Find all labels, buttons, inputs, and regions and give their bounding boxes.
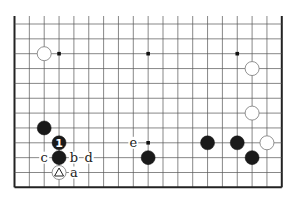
- black-stone-icon: [245, 151, 259, 165]
- black-stone-icon: [52, 151, 66, 165]
- white-stone-icon: [245, 106, 259, 120]
- black-stone-icon: [141, 151, 155, 165]
- go-board-diagram: 1cbdae: [0, 0, 294, 205]
- star-point-icon: [235, 52, 239, 56]
- move-number: 1: [55, 137, 63, 150]
- star-point-icon: [146, 52, 150, 56]
- black-stone-icon: [201, 136, 215, 150]
- point-label-e: e: [129, 135, 137, 150]
- point-label-d: d: [85, 150, 93, 165]
- black-stone-icon: [37, 121, 51, 135]
- point-label-b: b: [70, 150, 78, 165]
- star-point-icon: [146, 141, 150, 145]
- point-label-a: a: [70, 165, 78, 180]
- point-label-c: c: [41, 150, 48, 165]
- white-stone-icon: [260, 136, 274, 150]
- white-stone-icon: [245, 62, 259, 76]
- white-stone-icon: [37, 47, 51, 61]
- black-stone-icon: [230, 136, 244, 150]
- star-point-icon: [57, 52, 61, 56]
